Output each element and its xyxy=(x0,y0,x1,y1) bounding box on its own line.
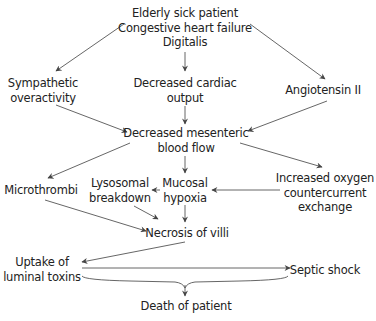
node-origin-line-3: Digitalis xyxy=(118,35,252,50)
edge-angiotensin-mesenteric xyxy=(248,101,327,131)
edge-necrosis-toxins xyxy=(82,242,185,262)
node-sympathetic-overactivity: Sympathetic overactivity xyxy=(8,76,78,105)
node-angiotensin-ii: Angiotensin II xyxy=(285,83,361,98)
node-toxins-line-2: luminal toxins xyxy=(3,270,81,285)
node-septic-shock: Septic shock xyxy=(290,263,360,278)
node-decreased-cardiac-output: Decreased cardiac output xyxy=(133,76,236,105)
node-microthrombi: Microthrombi xyxy=(4,183,78,198)
node-necrosis-of-villi: Necrosis of villi xyxy=(145,226,228,241)
node-cardiac-output-line-1: Decreased cardiac xyxy=(133,76,236,91)
node-oxygen-line-1: Increased oxygen xyxy=(276,171,374,186)
node-death-of-patient: Death of patient xyxy=(141,299,232,314)
node-oxygen-line-2: countercurrent xyxy=(276,186,374,201)
node-hypoxia-line-2: hypoxia xyxy=(162,191,207,206)
node-necrosis-line-1: Necrosis of villi xyxy=(145,226,228,241)
node-lysosomal-line-1: Lysosomal xyxy=(89,176,151,191)
node-oxygen-line-3: exchange xyxy=(276,200,374,215)
node-sympathetic-line-2: overactivity xyxy=(8,91,78,106)
edge-mesenteric-oxygen xyxy=(240,143,322,167)
node-decreased-mesenteric-blood-flow: Decreased mesenteric blood flow xyxy=(123,126,248,155)
node-mesenteric-line-2: blood flow xyxy=(123,141,248,156)
pathophysiology-flowchart: Elderly sick patient Congestive heart fa… xyxy=(0,0,376,321)
node-uptake-of-luminal-toxins: Uptake of luminal toxins xyxy=(3,255,81,284)
node-death-line-1: Death of patient xyxy=(141,299,232,314)
node-mesenteric-line-1: Decreased mesenteric xyxy=(123,126,248,141)
node-septic-line-1: Septic shock xyxy=(290,263,360,278)
node-origin-line-2: Congestive heart failure xyxy=(118,21,252,36)
node-sympathetic-line-1: Sympathetic xyxy=(8,76,78,91)
node-hypoxia-line-1: Mucosal xyxy=(162,176,207,191)
node-lysosomal-breakdown: Lysosomal breakdown xyxy=(89,176,151,205)
node-origin-line-1: Elderly sick patient xyxy=(118,6,252,21)
node-origin: Elderly sick patient Congestive heart fa… xyxy=(118,6,252,50)
node-lysosomal-line-2: breakdown xyxy=(89,191,151,206)
edge-sympathetic-mesenteric xyxy=(56,105,127,132)
node-angiotensin-line-1: Angiotensin II xyxy=(285,83,361,98)
node-microthrombi-line-1: Microthrombi xyxy=(4,183,78,198)
edge-lysosomal-necrosis xyxy=(134,206,158,219)
node-mucosal-hypoxia: Mucosal hypoxia xyxy=(162,176,207,205)
node-toxins-line-1: Uptake of xyxy=(3,255,81,270)
edge-mesenteric-microthrombi xyxy=(48,143,130,178)
node-increased-oxygen-countercurrent-exchange: Increased oxygen countercurrent exchange xyxy=(276,171,374,215)
node-cardiac-output-line-2: output xyxy=(133,91,236,106)
edge-origin-angiotensin xyxy=(250,24,325,79)
edge-origin-sympathetic xyxy=(56,24,124,71)
